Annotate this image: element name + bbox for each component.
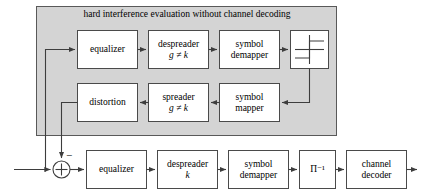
block-channel-decoder [347,151,407,189]
block-top-equalizer [78,31,138,69]
block-distortion [78,84,138,122]
block-bottom-symbol-demapper [229,151,289,189]
block-deinterleaver [300,151,336,189]
block-symbol-mapper [220,84,280,122]
block-bottom-equalizer [87,151,147,189]
block-bottom-despreader [158,151,218,189]
block-diagram-figure: hard interference evaluation without cha… [0,0,421,195]
panel-title: hard interference evaluation without cha… [40,9,334,20]
block-spreader [149,84,209,122]
block-top-despreader [149,31,209,69]
diagram-canvas [0,0,421,195]
block-top-symbol-demapper [220,31,280,69]
